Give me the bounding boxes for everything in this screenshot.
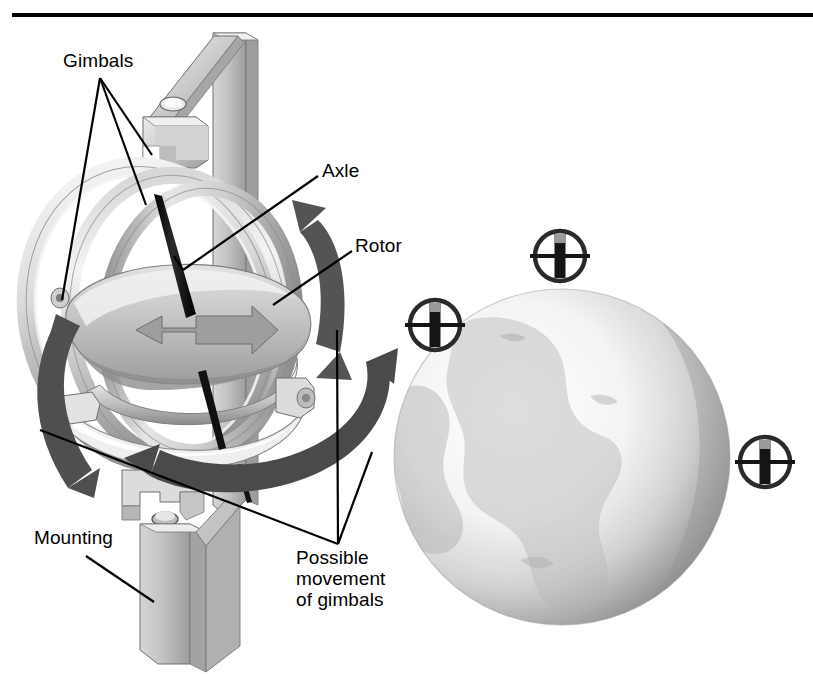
- top-rule: [12, 13, 813, 17]
- label-rotor: Rotor: [355, 235, 402, 256]
- illustration-svg: [0, 0, 813, 674]
- figure-canvas: Gimbals Axle Rotor Mounting Possible mov…: [0, 0, 813, 674]
- leader-movement-top: [337, 330, 338, 544]
- label-possible-line-3: of gimbals: [296, 589, 386, 610]
- label-possible-line-1: Possible: [296, 547, 386, 568]
- label-axle: Axle: [322, 160, 359, 181]
- leader-movement-right: [338, 452, 372, 544]
- gyro-symbol-top: [530, 231, 590, 281]
- gyro-symbol-right: [735, 437, 795, 487]
- label-mounting: Mounting: [34, 527, 113, 548]
- label-possible-line-2: movement: [296, 568, 386, 589]
- label-possible-movement: Possible movement of gimbals: [296, 547, 386, 610]
- label-gimbals: Gimbals: [63, 50, 133, 71]
